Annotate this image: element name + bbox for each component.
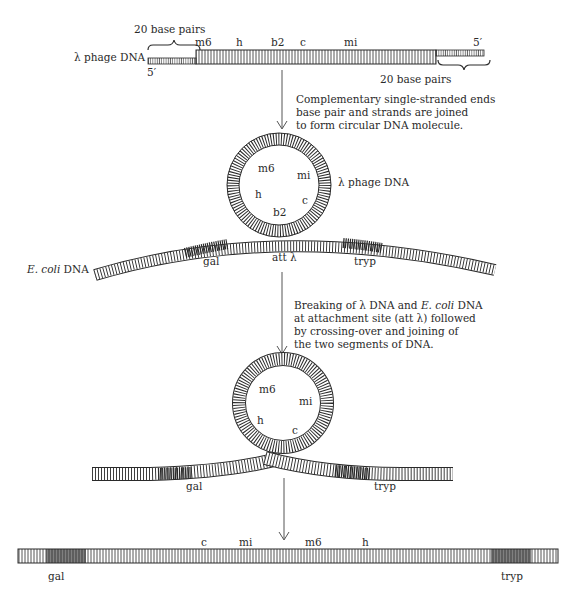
circle-gene-mi: mi <box>297 169 311 181</box>
circle-gene-h: h <box>255 188 262 200</box>
arrow-circularize <box>277 70 287 129</box>
crossover-structure <box>92 359 453 474</box>
crossover-gene-tryp: tryp <box>374 480 396 492</box>
lambda-double-strand <box>196 50 436 64</box>
left-5prime-label: 5′ <box>147 66 157 78</box>
circular-lambda-dna <box>227 133 331 237</box>
integrated-gene-h: h <box>362 536 369 548</box>
right-sticky-end <box>436 50 484 56</box>
loop-gene-h: h <box>257 414 264 426</box>
caption1-line2: base pair and strands are joined <box>296 106 469 118</box>
integrated-dna <box>18 549 558 563</box>
circle-gene-b2: b2 <box>273 206 286 218</box>
caption2-line3: by crossing-over and joining of <box>294 325 459 337</box>
ecoli-label: E. coli DNA <box>26 263 89 275</box>
caption2-line4: the two segments of DNA. <box>294 338 434 350</box>
integrated-gene-m6: m6 <box>305 536 322 548</box>
integrated-gene-mi: mi <box>239 536 253 548</box>
gene-c: c <box>300 36 306 48</box>
ecoli-gene-gal: gal <box>203 255 220 267</box>
gene-h: h <box>236 36 243 48</box>
integrated-gene-gal: gal <box>48 570 65 582</box>
caption1-line3: to form circular DNA molecule. <box>296 119 463 131</box>
caption1-line1: Complementary single-stranded ends <box>296 93 495 105</box>
circle-label: λ phage DNA <box>338 176 410 188</box>
lambda-linear-label: λ phage DNA <box>74 51 146 63</box>
loop-gene-c: c <box>292 424 298 436</box>
loop-gene-mi: mi <box>299 395 313 407</box>
circle-gene-m6: m6 <box>258 162 275 174</box>
loop-gene-m6: m6 <box>259 383 276 395</box>
caption2-line2: at attachment site (att λ) followed <box>294 312 476 324</box>
right-5prime-label: 5′ <box>473 36 483 48</box>
integrated-gene-tryp: tryp <box>501 570 523 582</box>
gene-mi: mi <box>344 36 358 48</box>
arrow-crossover <box>277 272 287 354</box>
gal-region <box>46 549 86 563</box>
right-brace <box>438 60 490 70</box>
crossover-gene-gal: gal <box>186 480 203 492</box>
gene-m6: m6 <box>195 36 212 48</box>
ecoli-gene-att: att λ <box>272 251 297 263</box>
left-brace <box>148 40 200 50</box>
left-sticky-end <box>148 58 196 64</box>
right-brace-label: 20 base pairs <box>380 73 451 85</box>
caption2-line1: Breaking of λ DNA and E. coli DNA <box>294 299 483 311</box>
gene-b2: b2 <box>271 36 284 48</box>
arrow-integration <box>279 478 289 540</box>
circle-gene-c: c <box>302 194 308 206</box>
integrated-gene-c: c <box>201 536 207 548</box>
lambda-integration-diagram: 20 base pairs λ phage DNA 5′ 5′ 20 base … <box>0 0 573 595</box>
left-brace-label: 20 base pairs <box>134 23 205 35</box>
tryp-region <box>491 549 531 563</box>
ecoli-gene-tryp: tryp <box>354 255 376 267</box>
